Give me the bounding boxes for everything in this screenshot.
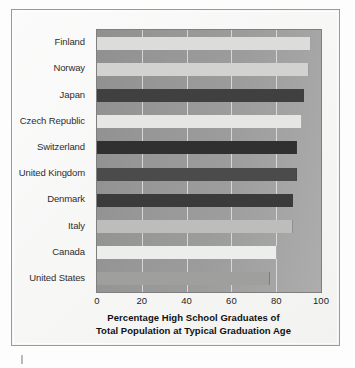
- plot-area: [96, 29, 322, 293]
- category-label-denmark: Denmark: [47, 193, 85, 204]
- page-registration-mark: [21, 355, 23, 364]
- bar-row: [97, 187, 321, 213]
- x-tick-label-40: 40: [181, 295, 192, 306]
- bar-chart: FinlandNorwayJapanCzech RepublicSwitzerl…: [11, 9, 340, 346]
- bar-denmark: [97, 194, 293, 207]
- bar-japan: [97, 89, 304, 102]
- bar-norway: [97, 63, 309, 76]
- category-label-switzerland: Switzerland: [37, 141, 85, 152]
- bar-italy: [97, 220, 293, 233]
- bar-row: [97, 30, 321, 56]
- category-label-japan: Japan: [60, 89, 85, 100]
- value-axis-ticks: 020406080100: [96, 293, 322, 309]
- bar-row: [97, 161, 321, 187]
- category-label-italy: Italy: [68, 220, 85, 231]
- x-tick-label-100: 100: [313, 295, 329, 306]
- bar-united-states: [97, 272, 270, 285]
- x-tick-label-0: 0: [94, 295, 99, 306]
- bar-row: [97, 82, 321, 108]
- category-label-finland: Finland: [55, 36, 85, 47]
- category-label-norway: Norway: [53, 62, 85, 73]
- bar-row: [97, 266, 321, 292]
- category-label-czech-republic: Czech Republic: [20, 115, 85, 126]
- x-tick-label-60: 60: [226, 295, 237, 306]
- category-label-canada: Canada: [52, 246, 85, 257]
- axis-title-line-2: Total Population at Typical Graduation A…: [61, 324, 326, 337]
- bar-row: [97, 109, 321, 135]
- bar-rows: [97, 30, 321, 292]
- bar-row: [97, 240, 321, 266]
- category-axis-labels: FinlandNorwayJapanCzech RepublicSwitzerl…: [11, 29, 91, 291]
- bar-united-kingdom: [97, 168, 297, 181]
- bar-czech-republic: [97, 115, 302, 128]
- bar-switzerland: [97, 141, 297, 154]
- axis-title-line-1: Percentage High School Graduates of: [61, 311, 326, 324]
- x-tick-label-20: 20: [137, 295, 148, 306]
- bar-row: [97, 56, 321, 82]
- bar-row: [97, 213, 321, 239]
- bar-canada: [97, 246, 277, 259]
- category-label-united-states: United States: [29, 272, 85, 283]
- screenshot-canvas: FinlandNorwayJapanCzech RepublicSwitzerl…: [0, 0, 355, 368]
- bar-finland: [97, 37, 311, 50]
- category-label-united-kingdom: United Kingdom: [19, 167, 85, 178]
- axis-title: Percentage High School Graduates of Tota…: [61, 311, 326, 337]
- x-tick-label-80: 80: [271, 295, 282, 306]
- bar-row: [97, 135, 321, 161]
